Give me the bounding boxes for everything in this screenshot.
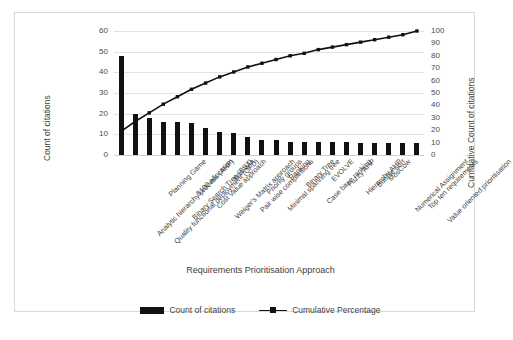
y-axis-left-tick: 0	[82, 151, 108, 159]
legend-line-swatch	[259, 306, 287, 315]
line-marker	[359, 40, 362, 43]
legend-item-cumulative: Cumulative Percentage	[259, 305, 380, 315]
line-marker	[345, 43, 348, 46]
x-axis-title: Requirements Prioritisation Approach	[15, 265, 506, 275]
y-axis-right-tick: 80	[431, 52, 457, 60]
line-marker	[331, 45, 334, 48]
y-axis-left-title: Count of citations	[42, 95, 52, 161]
chart-frame: Count of citations Cumulative Count of c…	[14, 12, 475, 312]
gridline	[114, 155, 424, 156]
chart-legend: Count of citations Cumulative Percentage	[15, 305, 506, 315]
line-marker	[373, 38, 376, 41]
line-marker	[415, 29, 418, 32]
y-axis-right-tick: 50	[431, 89, 457, 97]
legend-item-count: Count of citations	[140, 305, 235, 315]
line-marker	[274, 58, 277, 61]
line-marker	[133, 120, 136, 123]
y-axis-right-tick: 40	[431, 101, 457, 109]
line-marker	[162, 102, 165, 105]
line-marker	[176, 95, 179, 98]
line-marker	[387, 36, 390, 39]
line-marker	[317, 48, 320, 51]
y-axis-left-tick: 40	[82, 68, 108, 76]
cumulative-line	[121, 31, 417, 131]
y-axis-right-tick: 0	[431, 151, 457, 159]
y-axis-right-tick: 100	[431, 27, 457, 35]
y-axis-right-tick: 90	[431, 39, 457, 47]
line-marker	[190, 88, 193, 91]
plot-area: 01020304050600102030405060708090100	[114, 31, 424, 155]
line-marker	[232, 70, 235, 73]
y-axis-right-tick: 10	[431, 139, 457, 147]
line-marker	[288, 54, 291, 57]
line-marker	[218, 75, 221, 78]
line-marker	[401, 33, 404, 36]
y-axis-left-tick: 50	[82, 48, 108, 56]
legend-label-count: Count of citations	[169, 305, 235, 315]
line-marker	[119, 130, 122, 133]
line-marker	[204, 81, 207, 84]
y-axis-left-tick: 60	[82, 27, 108, 35]
y-axis-right-tick: 60	[431, 77, 457, 85]
x-axis-category-labels: Analytic hierarchy process (AHP)Quality …	[114, 157, 434, 267]
y-axis-left-tick: 20	[82, 110, 108, 118]
y-axis-left-tick: 10	[82, 130, 108, 138]
legend-bar-swatch	[140, 307, 164, 314]
y-axis-right-tick: 20	[431, 126, 457, 134]
cumulative-line-series	[114, 31, 424, 155]
line-marker	[148, 111, 151, 114]
line-marker	[303, 52, 306, 55]
y-axis-left-tick: 30	[82, 89, 108, 97]
line-marker	[246, 65, 249, 68]
line-marker	[260, 62, 263, 65]
legend-label-cumulative: Cumulative Percentage	[292, 305, 380, 315]
y-axis-right-tick: 70	[431, 64, 457, 72]
y-axis-right-tick: 30	[431, 114, 457, 122]
